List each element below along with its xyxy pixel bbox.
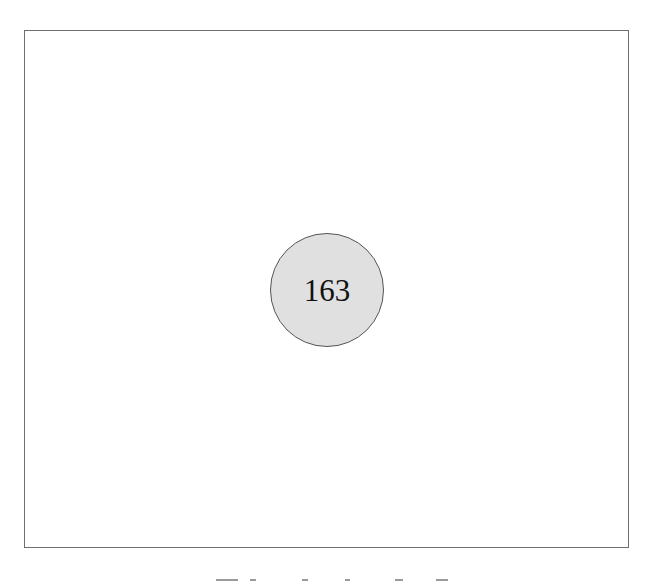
node-label: 163 bbox=[304, 275, 351, 306]
diagram-node: 163 bbox=[270, 233, 384, 347]
